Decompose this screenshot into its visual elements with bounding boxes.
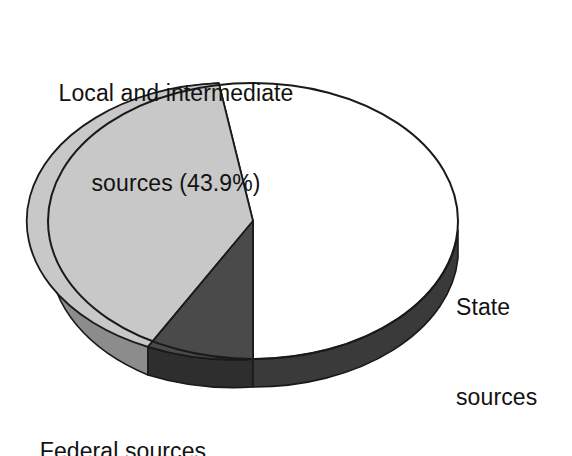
slice-label-federal-line1: Federal sources: [8, 436, 238, 456]
slice-label-local-line1: Local and intermediate: [26, 78, 326, 108]
slice-label-local-line2: sources (43.9%): [26, 168, 326, 198]
slice-label-federal: Federal sources (8.9%): [8, 376, 238, 456]
pie-chart-figure: Local and intermediate sources (43.9%) S…: [0, 0, 572, 456]
slice-label-state-line1: State: [456, 292, 572, 322]
slice-label-state-line2: sources: [456, 382, 572, 412]
slice-label-state: State sources (47.1%): [456, 232, 572, 456]
slice-label-local: Local and intermediate sources (43.9%): [26, 18, 326, 258]
